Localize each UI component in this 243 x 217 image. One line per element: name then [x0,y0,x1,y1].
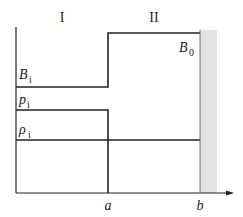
bi-subscript: i [29,74,32,85]
a-tick-label: a [105,198,112,213]
b0-subscript: 0 [189,47,194,58]
b-tick-label: b [197,198,204,213]
conducting-wall [200,30,217,193]
region-1-label: I [60,10,65,25]
pi-subscript: i [27,99,30,110]
x-axis-arrow-icon [226,191,234,196]
pressure-profile [16,110,108,193]
b0-label: B [179,40,188,55]
rhoi-label: ρ [18,122,26,137]
pi-label: p [18,92,26,107]
region-2-label: II [149,10,159,25]
profile-diagram: I II B 0 B i p i ρ i a b [0,0,243,217]
magnetic-field-profile [16,33,200,87]
rhoi-subscript: i [28,129,31,140]
bi-label: B [19,67,28,82]
